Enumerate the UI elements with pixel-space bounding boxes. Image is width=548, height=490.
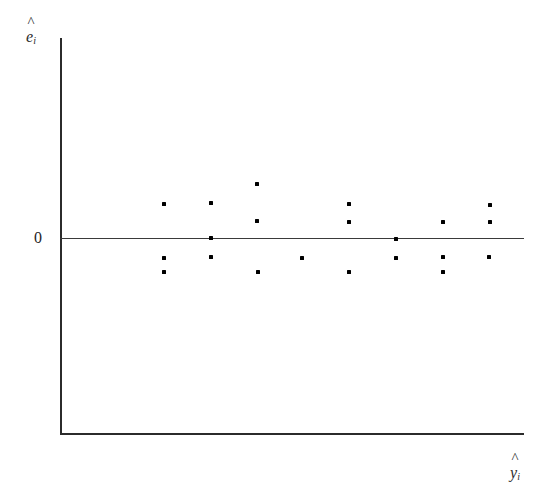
scatter-point: [441, 220, 445, 224]
scatter-point: [347, 220, 351, 224]
x-axis-label: ^ yi: [498, 452, 532, 483]
zero-tick-label: 0: [34, 229, 42, 247]
scatter-point: [441, 255, 445, 259]
scatter-point: [162, 270, 166, 274]
residual-plot-figure: 0 ^ ei ^ yi: [0, 0, 548, 490]
scatter-point: [255, 182, 259, 186]
scatter-point: [347, 202, 351, 206]
scatter-point: [394, 256, 398, 260]
y-axis-line: [60, 38, 62, 435]
x-axis-symbol-subscript: i: [517, 471, 520, 482]
scatter-point: [488, 220, 492, 224]
y-axis-label: ^ ei: [14, 16, 48, 47]
scatter-point: [162, 202, 166, 206]
scatter-point: [347, 270, 351, 274]
scatter-point: [209, 201, 213, 205]
scatter-point: [441, 270, 445, 274]
scatter-point: [256, 270, 260, 274]
scatter-point: [162, 256, 166, 260]
y-axis-symbol: ei: [14, 29, 48, 47]
x-axis-line: [60, 433, 524, 435]
scatter-point: [487, 255, 491, 259]
scatter-point: [394, 237, 398, 241]
y-axis-symbol-subscript: i: [33, 35, 36, 46]
x-axis-symbol: yi: [498, 465, 532, 483]
scatter-point: [255, 219, 259, 223]
scatter-point: [488, 203, 492, 207]
scatter-point: [300, 256, 304, 260]
zero-reference-line: [60, 238, 524, 239]
scatter-point: [209, 236, 213, 240]
scatter-point: [209, 255, 213, 259]
